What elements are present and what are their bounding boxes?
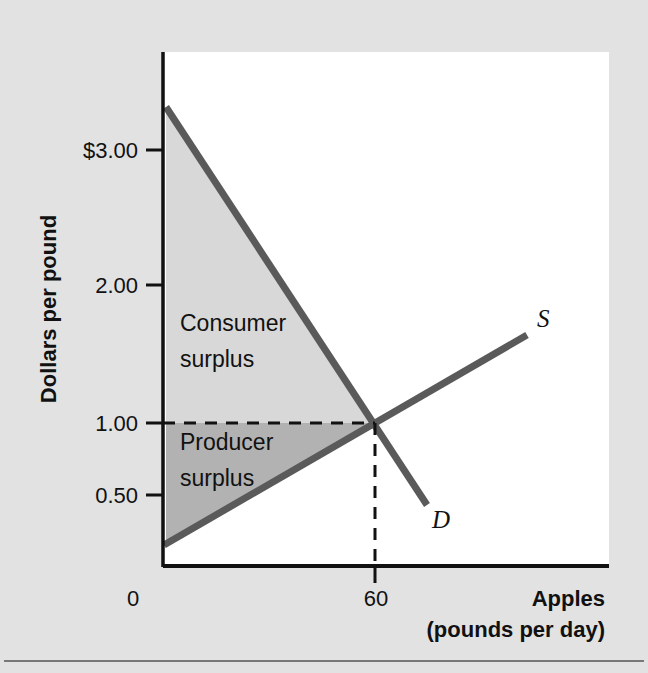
y-tick-label-3: $3.00 <box>83 138 138 163</box>
consumer-surplus-label-line2: surplus <box>180 346 254 372</box>
consumer-surplus-label-line1: Consumer <box>180 310 286 336</box>
y-tick-label-05: 0.50 <box>95 483 138 508</box>
y-tick-label-1: 1.00 <box>95 411 138 436</box>
x-axis-title: Apples <box>532 586 605 611</box>
demand-curve-label: D <box>431 506 450 533</box>
x-tick-label-60: 60 <box>364 586 388 611</box>
supply-curve-label: S <box>537 305 550 332</box>
y-tick-label-2: 2.00 <box>95 273 138 298</box>
figure-container: $3.00 2.00 1.00 0.50 0 60 Dollars per po… <box>0 0 648 673</box>
y-axis-title: Dollars per pound <box>36 215 61 403</box>
x-axis-subtitle: (pounds per day) <box>427 617 605 642</box>
supply-demand-surplus-chart: $3.00 2.00 1.00 0.50 0 60 Dollars per po… <box>0 0 648 673</box>
producer-surplus-label-line2: surplus <box>180 465 254 491</box>
producer-surplus-label-line1: Producer <box>180 429 274 455</box>
x-tick-label-0: 0 <box>127 586 139 611</box>
